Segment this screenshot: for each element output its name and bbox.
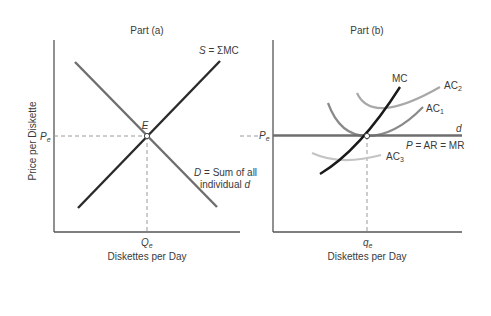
part-a-quantity-tick: Qe [141, 237, 153, 249]
demand-label-line1: D = Sum of all [194, 167, 257, 178]
part-b-x-axis-label: Diskettes per Day [328, 251, 407, 262]
equilibrium-point [144, 133, 149, 138]
firm-equilibrium-point [364, 133, 369, 138]
part-a-market: Part (a) E S = ΣMC D = Sum of all indivi… [27, 25, 257, 262]
d-label: d [456, 123, 462, 134]
price-line-label: P = AR = MR [406, 140, 464, 151]
part-b-title: Part (b) [350, 25, 383, 36]
ac1-label: AC1 [426, 103, 444, 115]
demand-label-line2: individual d [200, 179, 250, 190]
part-a-y-axis-label: Price per Diskette [27, 101, 38, 180]
ac3-label: AC3 [386, 151, 404, 163]
part-a-price-tick: Pe [40, 131, 51, 143]
part-b-firm: Part (b) MC AC2 AC1 AC3 d P = AR = MR Pe… [259, 25, 464, 262]
equilibrium-label: E [142, 120, 149, 131]
part-a-x-axis-label: Diskettes per Day [108, 251, 187, 262]
supply-label: S = ΣMC [199, 45, 239, 56]
diagram-canvas: Part (a) E S = ΣMC D = Sum of all indivi… [0, 0, 491, 316]
part-b-quantity-tick: qe [363, 237, 373, 249]
mc-label: MC [392, 73, 408, 84]
ac2-label: AC2 [444, 80, 462, 92]
part-a-title: Part (a) [130, 25, 163, 36]
part-b-price-tick: Pe [259, 130, 270, 142]
